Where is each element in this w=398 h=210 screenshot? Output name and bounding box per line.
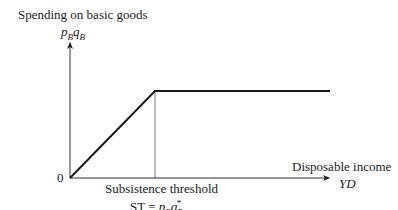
spending-curve <box>70 91 330 178</box>
x-axis-symbol: YD <box>339 177 356 191</box>
threshold-equation: ST = pBqB* <box>130 196 181 210</box>
threshold-title: Subsistence threshold <box>105 182 218 196</box>
origin-label: 0 <box>57 171 64 185</box>
x-axis-title: Disposable income <box>292 160 391 174</box>
threshold-eq-prefix: ST = <box>130 199 159 210</box>
threshold-q-sup: * <box>177 198 182 208</box>
